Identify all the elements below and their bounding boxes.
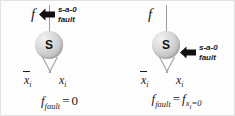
fault-label-line1: s-a-0 [58,5,77,15]
eq-rhs-sub-group: xi=0 [186,98,202,108]
input-wire-right [49,57,58,73]
input-wire-right [166,57,175,73]
eq-lhs-sub: fault [45,101,61,111]
fault-label-line1: s-a-0 [199,43,218,53]
fault-arrow-icon [180,46,196,59]
fault-arrow-icon [39,8,55,21]
output-label-f: f [31,6,35,23]
eq-relation: = [171,91,182,106]
output-wire [166,5,167,32]
gate-node-label: S [45,39,53,51]
gate-node-s: S [152,31,180,59]
eq-rhs-sub-tail: =0 [191,98,201,108]
diagram-panel-left: f s-a-0 fault S xi xi ffault=0 [1,1,118,116]
input-label-xi: xi [176,73,184,89]
gate-node-label: S [162,39,170,51]
input-label-xi-bar-text: xi [141,73,149,87]
gate-node-s: S [35,31,63,59]
equation-right: ffault=fxi=0 [118,91,235,111]
stuck-at-fault-figure: f s-a-0 fault S xi xi ffault=0 [0,0,235,116]
fault-label-line2: fault [199,53,216,63]
input-label-xi-bar: xi [24,73,32,89]
input-label-xi-bar: xi [141,73,149,89]
equation-left: ffault=0 [1,93,118,111]
input-label-xi-bar-text: xi [24,73,32,87]
eq-relation: = [60,93,71,108]
eq-rhs: 0 [72,93,79,108]
input-label-xi: xi [59,73,67,89]
diagram-panel-right: f S s-a-0 fault xi xi ffault=fxi=0 [118,1,235,116]
fault-label-line2: fault [58,15,75,25]
output-label-f: f [148,6,152,23]
eq-lhs-sub: fault [155,98,171,108]
